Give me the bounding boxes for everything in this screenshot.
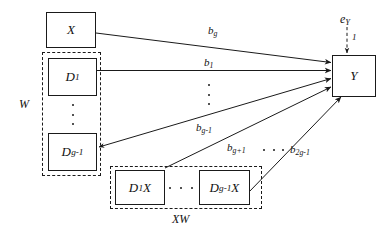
node-d1x-suffix: X	[143, 180, 151, 196]
node-dg1x-subscript: g-1	[219, 183, 231, 193]
path-label-d1x-to-y: bg+1	[227, 142, 246, 155]
error-term-subscript: Y	[345, 17, 350, 27]
node-y: Y	[332, 55, 376, 97]
node-x: X	[46, 12, 96, 48]
node-d1x: D1X	[115, 170, 165, 205]
node-x-label: X	[67, 22, 75, 38]
group-label-xw: XW	[172, 213, 189, 225]
error-term-ey: eY	[340, 13, 350, 26]
node-d1-label: D	[65, 69, 75, 85]
path-label-dg1-to-y-subscript: g-1	[202, 126, 212, 135]
path-label-x-to-y-subscript: g	[214, 29, 218, 38]
node-d1-subscript: 1	[75, 72, 80, 82]
path-diagram: X D1 Dg-1 D1X Dg-1X Y W XW eY 1 bg b1	[0, 0, 392, 239]
vertical-ellipsis-w-group	[71, 104, 74, 125]
node-dg1x-label: D	[209, 180, 219, 196]
horizontal-ellipsis-xw-group	[169, 186, 193, 189]
node-d1x-label: D	[129, 180, 139, 196]
path-label-d1x-to-y-subscript: g+1	[233, 146, 246, 155]
node-dg1-label: D	[62, 144, 72, 160]
path-label-x-to-y: bg	[208, 25, 217, 38]
arrow-dg1-to-y	[99, 79, 331, 148]
horizontal-ellipsis-interaction-paths	[263, 148, 284, 151]
node-dg1: Dg-1	[48, 133, 97, 171]
path-label-dg1x-to-y: b2g-1	[290, 144, 310, 157]
path-label-d1-to-y-subscript: 1	[210, 61, 214, 70]
node-d1: D1	[48, 58, 97, 96]
node-dg1-subscript: g-1	[71, 147, 83, 157]
node-dg1x-suffix: X	[231, 180, 239, 196]
vertical-ellipsis-paths	[207, 84, 210, 105]
group-label-w: W	[19, 98, 29, 110]
node-y-label: Y	[350, 68, 357, 84]
path-label-d1-to-y: b1	[204, 57, 213, 70]
path-label-dg1x-to-y-subscript: 2g-1	[296, 148, 310, 157]
error-loading-label: 1	[352, 33, 357, 42]
path-label-dg1-to-y: bg-1	[196, 122, 212, 135]
node-dg1x: Dg-1X	[199, 170, 250, 205]
